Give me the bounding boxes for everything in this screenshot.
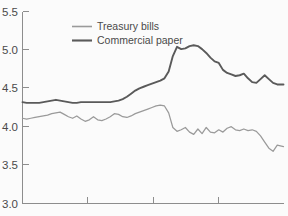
y-tick-label-3-0: 3.0 — [2, 198, 18, 210]
line-chart-plot: 5.5 5.0 4.5 4.0 3.5 3.0 Treasury bills C… — [0, 0, 288, 216]
y-axis-ticks — [23, 12, 29, 204]
series-line-treasury-bills — [23, 105, 284, 151]
y-axis-tick-labels: 5.5 5.0 4.5 4.0 3.5 3.0 — [2, 6, 18, 210]
legend-label-treasury-bills: Treasury bills — [97, 20, 159, 32]
y-tick-label-4-0: 4.0 — [2, 121, 18, 133]
series-line-commercial-paper — [23, 45, 284, 103]
x-axis-ticks — [88, 197, 219, 204]
chart-legend: Treasury bills Commercial paper — [72, 20, 183, 46]
chart-container: 5.5 5.0 4.5 4.0 3.5 3.0 Treasury bills C… — [0, 0, 288, 216]
y-tick-label-5-0: 5.0 — [2, 44, 18, 56]
legend-label-commercial-paper: Commercial paper — [97, 34, 183, 46]
y-tick-label-5-5: 5.5 — [2, 6, 18, 18]
y-tick-label-4-5: 4.5 — [2, 82, 18, 94]
y-tick-label-3-5: 3.5 — [2, 159, 18, 171]
